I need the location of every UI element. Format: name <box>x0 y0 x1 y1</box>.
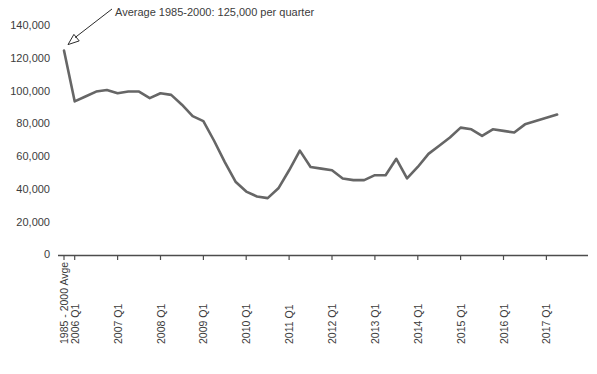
y-axis-tick-labels: 020,00040,00060,00080,000100,000120,0001… <box>10 19 50 261</box>
y-axis-tick-label: 80,000 <box>16 117 50 129</box>
x-axis-tick-label: 2007 Q1 <box>112 304 124 344</box>
y-axis-tick-label: 140,000 <box>10 19 50 31</box>
x-axis-tick-label: 2015 Q1 <box>455 304 467 344</box>
x-axis-tick-label: 2014 Q1 <box>412 304 424 344</box>
y-axis-tick-label: 60,000 <box>16 150 50 162</box>
line-chart: 020,00040,00060,00080,000100,000120,0001… <box>0 0 597 374</box>
x-axis-tick-label: 2012 Q1 <box>326 304 338 344</box>
annotation-label: Average 1985-2000: 125,000 per quarter <box>115 6 315 18</box>
chart-container: 020,00040,00060,00080,000100,000120,0001… <box>0 0 597 374</box>
annotation-leader-line <box>75 9 112 38</box>
y-axis-tick-label: 120,000 <box>10 52 50 64</box>
y-axis-tick-label: 100,000 <box>10 85 50 97</box>
x-axis-tick-label: 2016 Q1 <box>498 304 510 344</box>
x-axis-tick-label: 2008 Q1 <box>155 304 167 344</box>
y-axis-tick-label: 20,000 <box>16 216 50 228</box>
y-axis-tick-label: 0 <box>44 248 50 260</box>
x-axis-tick-label: 2013 Q1 <box>369 304 381 344</box>
data-series-line <box>64 51 557 199</box>
x-axis-tick-label: 2006 Q1 <box>69 304 81 344</box>
y-axis-tick-label: 40,000 <box>16 183 50 195</box>
x-axis-tick-label: 2010 Q1 <box>240 304 252 344</box>
annotation-group: Average 1985-2000: 125,000 per quarter <box>68 6 315 45</box>
x-axis-tick-label: 2017 Q1 <box>540 304 552 344</box>
x-axis-tick-labels: 1985 - 2000 Avge2006 Q12007 Q12008 Q1200… <box>58 262 552 344</box>
x-axis-tick-label: 2011 Q1 <box>283 304 295 344</box>
x-axis-tick-label: 2009 Q1 <box>197 304 209 344</box>
